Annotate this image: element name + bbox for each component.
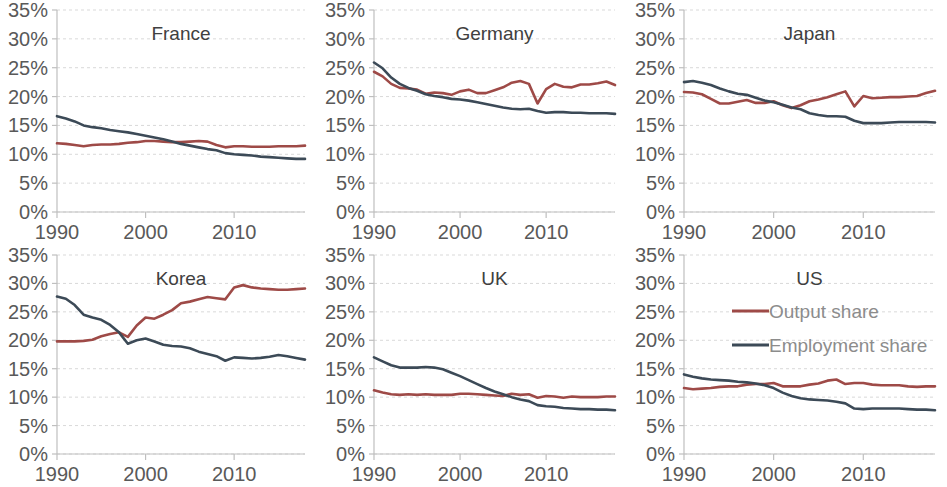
y-tick-label: 10% [8, 386, 48, 408]
series-line-employment-share [374, 63, 615, 114]
y-tick-label: 15% [635, 358, 675, 380]
y-tick-label: 5% [646, 172, 675, 194]
panel-uk: 35%30%25%20%15%10%5%0%199020002010UK [317, 245, 627, 487]
y-tick-label: 25% [8, 301, 48, 323]
x-tick-label: 2000 [123, 221, 168, 243]
panel-title: US [796, 268, 822, 289]
y-tick-label: 10% [8, 143, 48, 165]
panel-title: UK [481, 268, 508, 289]
series-line-output-share [684, 91, 935, 108]
y-tick-label: 25% [635, 301, 675, 323]
x-tick-label: 2010 [212, 221, 257, 243]
y-tick-label: 0% [646, 443, 675, 465]
y-tick-label: 10% [325, 386, 365, 408]
panel-korea: 35%30%25%20%15%10%5%0%199020002010Korea [0, 245, 317, 487]
x-tick-label: 2000 [123, 463, 168, 485]
y-tick-label: 5% [19, 415, 48, 437]
y-tick-label: 15% [8, 358, 48, 380]
y-tick-label: 30% [635, 272, 675, 294]
y-tick-label: 5% [646, 415, 675, 437]
y-tick-label: 25% [325, 301, 365, 323]
x-tick-label: 2010 [524, 221, 569, 243]
y-tick-label: 20% [8, 329, 48, 351]
x-tick-label: 1990 [662, 221, 707, 243]
small-multiples-chart-grid: 35%30%25%20%15%10%5%0%199020002010France… [0, 0, 947, 487]
y-tick-label: 15% [325, 358, 365, 380]
y-tick-label: 15% [8, 114, 48, 136]
series-line-employment-share [374, 357, 615, 410]
x-tick-label: 2010 [841, 221, 886, 243]
x-tick-label: 2010 [212, 463, 257, 485]
y-tick-label: 30% [325, 272, 365, 294]
y-tick-label: 10% [635, 143, 675, 165]
panel-france: 35%30%25%20%15%10%5%0%199020002010France [0, 0, 317, 245]
y-tick-label: 35% [8, 0, 48, 21]
panel-title: France [151, 23, 210, 44]
y-tick-label: 0% [646, 201, 675, 223]
y-tick-label: 25% [635, 57, 675, 79]
y-tick-label: 0% [336, 201, 365, 223]
x-tick-label: 1990 [352, 221, 397, 243]
panel-us: 35%30%25%20%15%10%5%0%199020002010USOutp… [627, 245, 947, 487]
y-tick-label: 30% [635, 28, 675, 50]
x-tick-label: 2010 [524, 463, 569, 485]
y-tick-label: 0% [19, 443, 48, 465]
panel-title: Japan [784, 23, 836, 44]
y-tick-label: 30% [325, 28, 365, 50]
y-tick-label: 0% [336, 443, 365, 465]
x-tick-label: 2000 [438, 463, 483, 485]
series-line-output-share [57, 285, 305, 341]
x-tick-label: 1990 [352, 463, 397, 485]
y-tick-label: 35% [635, 0, 675, 21]
panel-japan: 35%30%25%20%15%10%5%0%199020002010Japan [627, 0, 947, 245]
y-tick-label: 20% [635, 329, 675, 351]
y-tick-label: 30% [8, 28, 48, 50]
panel-title: Germany [455, 23, 534, 44]
y-tick-label: 25% [8, 57, 48, 79]
chart-legend: Output shareEmployment share [732, 301, 927, 356]
legend-label-employment-share: Employment share [769, 335, 927, 356]
y-tick-label: 10% [325, 143, 365, 165]
y-tick-label: 30% [8, 272, 48, 294]
y-tick-label: 20% [635, 86, 675, 108]
y-tick-label: 5% [336, 415, 365, 437]
x-tick-label: 1990 [35, 221, 80, 243]
y-tick-label: 0% [19, 201, 48, 223]
series-line-employment-share [684, 374, 935, 410]
panel-germany: 35%30%25%20%15%10%5%0%199020002010German… [317, 0, 627, 245]
y-tick-label: 5% [336, 172, 365, 194]
panel-title: Korea [156, 268, 207, 289]
y-tick-label: 35% [8, 245, 48, 266]
y-tick-label: 15% [325, 114, 365, 136]
y-tick-label: 20% [325, 86, 365, 108]
y-tick-label: 35% [325, 245, 365, 266]
series-line-employment-share [57, 297, 305, 361]
y-tick-label: 35% [325, 0, 365, 21]
y-tick-label: 20% [8, 86, 48, 108]
y-tick-label: 5% [19, 172, 48, 194]
y-tick-label: 20% [325, 329, 365, 351]
x-tick-label: 1990 [662, 463, 707, 485]
y-tick-label: 25% [325, 57, 365, 79]
x-tick-label: 2000 [438, 221, 483, 243]
x-tick-label: 1990 [35, 463, 80, 485]
x-tick-label: 2010 [841, 463, 886, 485]
legend-label-output-share: Output share [769, 301, 879, 322]
series-line-employment-share [57, 116, 305, 159]
x-tick-label: 2000 [751, 463, 796, 485]
y-tick-label: 15% [635, 114, 675, 136]
x-tick-label: 2000 [751, 221, 796, 243]
y-tick-label: 35% [635, 245, 675, 266]
y-tick-label: 10% [635, 386, 675, 408]
